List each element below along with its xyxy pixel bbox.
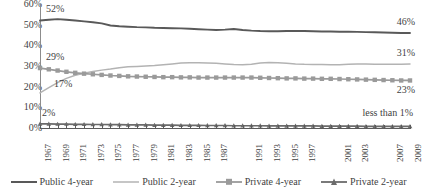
x-axis-tick — [304, 125, 305, 129]
legend-swatch-icon — [321, 177, 347, 187]
y-axis-tick-label: 50% — [8, 20, 42, 30]
x-axis-tick — [234, 125, 235, 129]
x-axis-tick — [40, 125, 41, 129]
series-marker — [108, 73, 112, 77]
x-axis-tick — [243, 125, 244, 129]
x-axis-tick — [93, 125, 94, 129]
x-axis-tick-label: 1997 — [308, 144, 317, 162]
series-marker — [355, 77, 359, 81]
x-axis-tick-label: 1993 — [273, 144, 282, 162]
series-marker — [276, 76, 280, 80]
y-axis-tick-label: 60% — [8, 0, 42, 9]
x-axis-tick — [146, 125, 147, 129]
legend-label: Private 4-year — [245, 177, 301, 187]
end-label-private-2-year: less than 1% — [362, 108, 413, 118]
y-axis-tick-label: 30% — [8, 61, 42, 71]
x-axis-tick — [172, 125, 173, 129]
series-marker — [91, 72, 95, 76]
x-axis-tick-label: 1995 — [291, 144, 300, 162]
series-marker — [232, 75, 236, 79]
x-axis-tick-label: 1983 — [185, 144, 194, 162]
x-axis-tick-label: 1971 — [79, 144, 88, 162]
x-axis-tick-label: 1991 — [255, 144, 264, 162]
start-label-private-2-year: 2% — [42, 108, 55, 118]
series-marker — [170, 75, 174, 79]
end-label-public-2-year: 31% — [397, 48, 415, 58]
series-marker — [311, 76, 315, 80]
legend-label: Private 2-year — [350, 177, 406, 187]
x-axis-tick — [75, 125, 76, 129]
x-axis-tick-label: 2003 — [361, 144, 370, 162]
series-marker — [329, 77, 333, 81]
series-marker — [284, 76, 288, 80]
x-axis-tick — [366, 125, 367, 129]
x-axis-tick — [251, 125, 252, 129]
x-axis-tick — [207, 125, 208, 129]
x-axis-tick — [49, 125, 50, 129]
series-marker — [373, 78, 377, 82]
y-axis-tick-label: 0% — [8, 123, 42, 133]
x-axis-tick-label: 1973 — [97, 144, 106, 162]
x-axis-tick-label: 1979 — [150, 144, 159, 162]
legend-item-0[interactable]: Public 4-year — [11, 177, 94, 187]
x-axis-tick — [181, 125, 182, 129]
x-axis-tick — [58, 125, 59, 129]
series-marker — [302, 76, 306, 80]
series-marker — [117, 74, 121, 78]
series-marker — [223, 75, 227, 79]
series-marker — [346, 77, 350, 81]
start-label-public-2-year: 17% — [54, 79, 72, 89]
series-marker — [390, 78, 394, 82]
x-axis-tick — [269, 125, 270, 129]
x-axis-tick — [216, 125, 217, 129]
series-marker — [126, 74, 130, 78]
x-axis-tick — [278, 125, 279, 129]
x-axis-tick — [199, 125, 200, 129]
series-marker — [258, 76, 262, 80]
end-label-private-4-year: 23% — [397, 85, 415, 95]
series-marker — [47, 67, 51, 71]
series-marker — [73, 71, 77, 75]
series-marker — [399, 78, 403, 82]
y-axis-tick-label: 20% — [8, 82, 42, 92]
series-marker — [99, 73, 103, 77]
x-axis-tick — [190, 125, 191, 129]
x-axis-tick — [295, 125, 296, 129]
chart-legend: Public 4-yearPublic 2-yearPrivate 4-year… — [0, 172, 417, 192]
x-axis-tick — [331, 125, 332, 129]
x-axis-tick-label: 1977 — [132, 144, 141, 162]
legend-item-1[interactable]: Public 2-year — [113, 177, 196, 187]
series-marker — [267, 76, 271, 80]
end-label-public-4-year: 46% — [397, 17, 415, 27]
x-axis-tick — [102, 125, 103, 129]
series-marker — [161, 75, 165, 79]
x-axis-tick — [163, 125, 164, 129]
legend-swatch-icon — [216, 177, 242, 187]
series-marker — [82, 71, 86, 75]
start-label-public-4-year: 52% — [46, 4, 64, 14]
legend-item-2[interactable]: Private 4-year — [216, 177, 301, 187]
start-label-private-4-year: 29% — [46, 52, 64, 62]
x-axis-tick — [128, 125, 129, 129]
series-marker — [408, 78, 412, 82]
x-axis-tick — [340, 125, 341, 129]
series-marker — [188, 75, 192, 79]
series-marker — [64, 70, 68, 74]
series-marker — [205, 75, 209, 79]
x-axis-tick-label: 2009 — [414, 144, 423, 162]
x-axis-tick — [110, 125, 111, 129]
series-marker — [196, 75, 200, 79]
x-axis-tick-label: 2001 — [344, 144, 353, 162]
x-axis-tick — [375, 125, 376, 129]
legend-item-3[interactable]: Private 2-year — [321, 177, 406, 187]
series-marker — [249, 75, 253, 79]
series-marker — [135, 74, 139, 78]
legend-label: Public 2-year — [142, 177, 196, 187]
x-axis-tick — [384, 125, 385, 129]
x-axis-tick — [155, 125, 156, 129]
x-axis-tick-label: 1985 — [203, 144, 212, 162]
legend-label: Public 4-year — [40, 177, 94, 187]
legend-swatch-icon — [11, 177, 37, 187]
x-axis-tick — [357, 125, 358, 129]
